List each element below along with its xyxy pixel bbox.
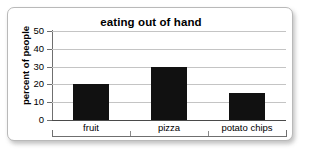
y-axis-tick — [47, 49, 52, 50]
chart-title: eating out of hand — [8, 16, 294, 28]
y-axis-tick-label: 40 — [22, 43, 44, 54]
y-axis-tick — [47, 102, 52, 103]
bar-potato-chips — [229, 93, 265, 120]
y-axis-tick — [47, 31, 52, 32]
y-axis-tick — [47, 67, 52, 68]
chart-card: eating out of hand percent of people 010… — [7, 7, 293, 141]
plot-area — [52, 31, 286, 120]
bar-fruit — [73, 84, 109, 120]
x-axis-separator — [130, 131, 131, 136]
x-axis-separator — [286, 130, 287, 137]
x-axis-tick-label: potato chips — [208, 122, 286, 133]
x-axis-line — [52, 136, 287, 137]
axis-baseline — [52, 120, 286, 121]
gridline — [52, 31, 286, 32]
x-axis-tick-label: fruit — [52, 122, 130, 133]
gridline — [52, 49, 286, 50]
x-axis-tick-label: pizza — [130, 122, 208, 133]
x-axis-separator — [52, 130, 53, 137]
y-axis-tick — [47, 84, 52, 85]
x-axis-separator — [208, 131, 209, 136]
bar-pizza — [151, 67, 187, 120]
y-axis-tick-label: 0 — [22, 114, 44, 125]
y-axis-tick-label: 50 — [22, 25, 44, 36]
y-axis-tick-label: 20 — [22, 78, 44, 89]
y-axis-tick-label: 30 — [22, 61, 44, 72]
y-axis-tick-label: 10 — [22, 96, 44, 107]
y-axis-tick — [47, 120, 52, 121]
